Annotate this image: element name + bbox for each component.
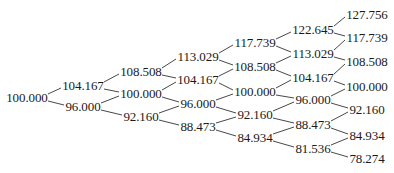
tree-edge (334, 17, 345, 26)
tree-edge (331, 103, 348, 108)
tree-node: 100.000 (6, 91, 48, 105)
tree-edge (273, 141, 294, 147)
tree-node: 78.274 (349, 152, 384, 166)
tree-node: 108.508 (120, 65, 162, 79)
tree-node: 127.756 (346, 8, 388, 22)
tree-edge (104, 74, 119, 82)
tree-edge (331, 89, 345, 96)
tree-edge (276, 56, 291, 63)
tree-node: 117.739 (234, 36, 275, 50)
tree-node: 104.167 (62, 79, 104, 93)
tree-edge (104, 89, 119, 92)
tree-edge (276, 46, 291, 52)
tree-edge (219, 69, 233, 76)
tree-node: 113.029 (177, 50, 218, 64)
tree-node: 100.000 (234, 85, 276, 99)
tree-node: 88.473 (180, 120, 215, 134)
tree-node: 100.000 (346, 80, 388, 94)
tree-node: 104.167 (292, 71, 334, 85)
tree-node: 113.029 (292, 47, 333, 61)
tree-edge (276, 80, 291, 88)
tree-edge (162, 59, 176, 68)
tree-node: 88.473 (295, 118, 330, 132)
tree-edge (331, 112, 348, 121)
tree-node: 84.934 (237, 131, 272, 145)
tree-edge (216, 117, 236, 123)
tree-edge (331, 152, 348, 157)
tree-edge (273, 102, 294, 111)
tree-edge (159, 120, 179, 125)
tree-node: 104.167 (177, 73, 219, 87)
tree-node: 96.000 (295, 93, 330, 107)
tree-node: 92.160 (123, 110, 158, 124)
tree-edge (273, 127, 294, 134)
tree-edge (101, 110, 122, 115)
tree-node: 84.934 (349, 129, 384, 143)
tree-edge (219, 45, 233, 53)
tree-edge (334, 64, 345, 74)
tree-node: 96.000 (180, 97, 215, 111)
tree-node: 122.645 (292, 23, 334, 37)
tree-edge (334, 40, 345, 50)
tree-edge (334, 33, 345, 36)
tree-edge (216, 94, 233, 100)
tree-node: 100.000 (120, 87, 162, 101)
tree-node: 92.160 (349, 103, 384, 117)
tree-node: 81.536 (295, 142, 330, 156)
tree-edge (334, 57, 345, 60)
tree-edge (162, 97, 179, 102)
tree-node: 92.160 (237, 108, 272, 122)
tree-edge (331, 138, 348, 145)
tree-edge (273, 118, 294, 123)
tree-edge (159, 106, 179, 113)
tree-edge (331, 128, 348, 134)
tree-edge (219, 83, 233, 90)
tree-edge (48, 101, 64, 105)
tree-node: 117.739 (346, 31, 387, 45)
tree-edge (216, 107, 236, 113)
tree-edge (162, 75, 176, 78)
tree-node: 108.508 (234, 60, 276, 74)
binomial-tree: 100.000104.16796.000108.508100.00092.160… (0, 0, 394, 173)
tree-edge (48, 88, 61, 94)
tree-node: 108.508 (346, 55, 388, 69)
tree-edge (219, 60, 233, 65)
tree-edge (101, 96, 119, 103)
tree-edge (276, 32, 291, 39)
tree-edge (162, 82, 176, 90)
tree-edge (276, 70, 291, 76)
tree-edge (276, 95, 294, 98)
tree-edge (216, 130, 236, 136)
tree-edge (334, 81, 345, 85)
tree-node: 96.000 (65, 100, 100, 114)
